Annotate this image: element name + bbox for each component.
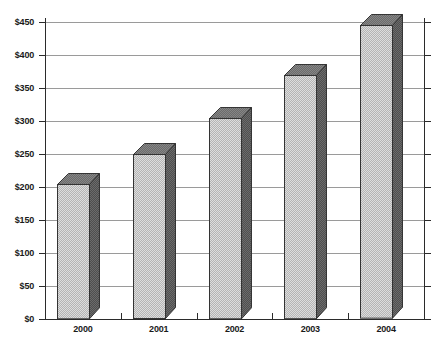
x-axis-separator-tick: [121, 313, 122, 320]
bar-front-face: [209, 118, 241, 318]
x-axis-separator-tick: [348, 313, 349, 320]
y-axis-tick-label: $50: [0, 282, 34, 291]
y-tick-mark-right: [425, 22, 431, 23]
bar-column: [284, 64, 327, 319]
y-axis-tick-label: $100: [0, 249, 34, 258]
y-tick-mark-right: [425, 286, 431, 287]
bar-chart: $0$50$100$150$200$250$300$350$400$450 20…: [0, 0, 437, 345]
y-axis-right-line: [424, 18, 425, 320]
bar-column: [360, 14, 403, 319]
bar-side-face: [393, 15, 403, 319]
y-axis-tick-label: $250: [0, 150, 34, 159]
x-axis-tick-label: 2002: [197, 324, 273, 334]
y-axis-tick-label: $200: [0, 183, 34, 192]
bar-side-face: [89, 173, 99, 318]
y-tick-mark-right: [425, 121, 431, 122]
bar-front-face: [361, 26, 393, 319]
y-axis-tick-label: $300: [0, 117, 34, 126]
bar-column: [209, 107, 252, 319]
y-tick-mark-right: [425, 319, 431, 320]
x-axis-line: [45, 319, 425, 320]
y-axis-tick-label: $350: [0, 84, 34, 93]
x-axis-tick-label: 2000: [45, 324, 121, 334]
x-axis-tick-label: 2004: [348, 324, 424, 334]
x-axis-tick-label: 2001: [121, 324, 197, 334]
y-tick-mark-right: [425, 187, 431, 188]
x-axis-tick-label: 2003: [272, 324, 348, 334]
y-tick-mark-right: [425, 55, 431, 56]
x-axis-separator-tick: [197, 313, 198, 320]
bar-front-face: [133, 155, 165, 319]
y-axis-tick-label: $450: [0, 18, 34, 27]
y-tick-mark-right: [425, 253, 431, 254]
x-axis-separator-tick: [272, 313, 273, 320]
bar-column: [133, 143, 176, 319]
bar-side-face: [317, 64, 327, 318]
y-axis-tick-label: $150: [0, 216, 34, 225]
y-axis-line: [45, 18, 46, 320]
y-axis-tick-label: $0: [0, 315, 34, 324]
bar-column: [57, 173, 100, 319]
y-tick-mark-right: [425, 88, 431, 89]
bar-side-face: [241, 107, 251, 318]
bar-front-face: [285, 75, 317, 318]
y-tick-mark-right: [425, 220, 431, 221]
y-tick-mark-right: [425, 154, 431, 155]
bar-front-face: [58, 184, 90, 318]
bar-side-face: [165, 144, 175, 319]
y-axis-tick-label: $400: [0, 51, 34, 60]
